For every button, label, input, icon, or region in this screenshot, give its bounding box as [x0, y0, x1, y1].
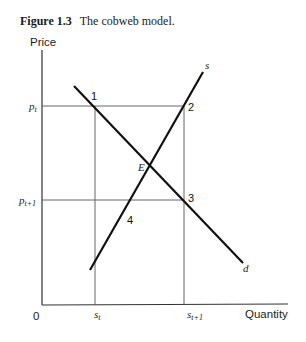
point-2-label: 2	[188, 101, 194, 113]
y-axis-label: Price	[30, 36, 56, 48]
x-axis	[42, 304, 288, 305]
s-t-label: st	[94, 308, 101, 322]
x-axis-label: Quantity	[245, 308, 288, 320]
cobweb-diagram: Price Quantity 0 pt pt+1 st st+1 s d 1 2…	[0, 0, 306, 342]
p-t1-label: pt+1	[18, 194, 36, 208]
point-1-label: 1	[91, 90, 97, 102]
point-4-label: 4	[127, 214, 133, 226]
p-t-label: pt	[28, 100, 38, 114]
s-t1-label: st+1	[187, 308, 203, 322]
origin-label: 0	[33, 310, 39, 322]
equilibrium-label: E	[137, 161, 145, 173]
point-3-label: 3	[188, 192, 194, 204]
demand-label: d	[243, 262, 249, 274]
supply-label: s	[205, 59, 209, 71]
demand-curve	[74, 86, 243, 263]
supply-curve	[90, 72, 203, 270]
